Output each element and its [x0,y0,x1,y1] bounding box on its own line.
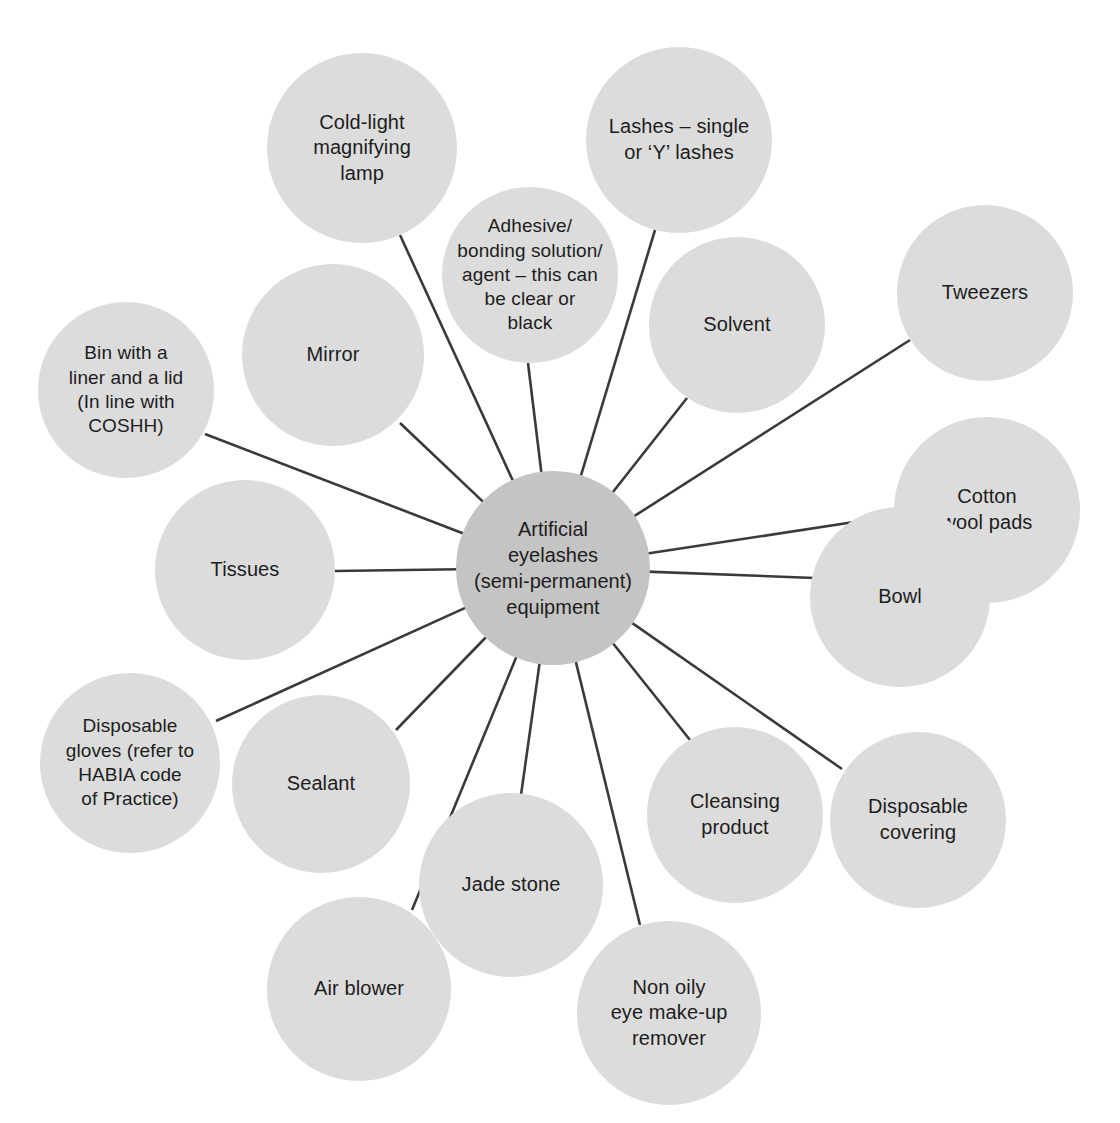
node-label-solvent: Solvent [697,312,776,338]
node-label-bowl: Bowl [872,584,928,610]
node-label-lashes-single-or-y: Lashes – single or ‘Y’ lashes [603,114,755,165]
edge-bowl [647,572,815,578]
node-label-jade-stone: Jade stone [456,872,567,898]
node-cold-light-magnifying-lamp[interactable]: Cold-light magnifying lamp [267,53,457,243]
node-cleansing-product[interactable]: Cleansing product [647,727,823,903]
node-label-adhesive-bonding-solution: Adhesive/ bonding solution/ agent – this… [451,214,608,336]
edge-jade-stone [521,661,540,795]
node-jade-stone[interactable]: Jade stone [419,793,603,977]
edge-adhesive-bonding-solution [528,363,542,475]
node-non-oily-eye-make-up-remover[interactable]: Non oily eye make-up remover [577,921,761,1105]
node-label-disposable-covering: Disposable covering [862,794,974,845]
node-label-sealant: Sealant [281,771,362,797]
edge-mirror [400,423,485,503]
node-sealant[interactable]: Sealant [232,695,410,873]
node-solvent[interactable]: Solvent [649,237,825,413]
node-label-mirror: Mirror [301,342,366,368]
edge-sealant [396,636,488,731]
center-node[interactable]: Artificial eyelashes (semi-permanent) eq… [456,471,650,665]
node-label-tweezers: Tweezers [936,280,1034,306]
node-air-blower[interactable]: Air blower [267,897,451,1081]
edge-tissues [335,569,459,571]
node-bowl[interactable]: Bowl [810,507,990,687]
node-tissues[interactable]: Tissues [155,480,335,660]
node-label-disposable-gloves-habia: Disposable gloves (refer to HABIA code o… [60,714,200,811]
node-disposable-covering[interactable]: Disposable covering [830,732,1006,908]
mind-map-canvas: Cold-light magnifying lampAdhesive/ bond… [0,0,1120,1123]
node-mirror[interactable]: Mirror [242,264,424,446]
node-bin-with-liner-and-lid[interactable]: Bin with a liner and a lid (In line with… [38,302,214,478]
edge-solvent [611,398,687,494]
node-tweezers[interactable]: Tweezers [897,205,1073,381]
node-label-air-blower: Air blower [308,976,410,1002]
node-label-tissues: Tissues [205,557,286,583]
node-disposable-gloves-habia[interactable]: Disposable gloves (refer to HABIA code o… [40,673,220,853]
node-label-bin-with-liner-and-lid: Bin with a liner and a lid (In line with… [63,341,190,438]
node-adhesive-bonding-solution[interactable]: Adhesive/ bonding solution/ agent – this… [442,187,618,363]
center-node-label: Artificial eyelashes (semi-permanent) eq… [468,516,638,620]
node-lashes-single-or-y[interactable]: Lashes – single or ‘Y’ lashes [586,47,772,233]
node-label-cold-light-magnifying-lamp: Cold-light magnifying lamp [307,110,417,187]
node-label-non-oily-eye-make-up-remover: Non oily eye make-up remover [605,975,734,1052]
node-label-cleansing-product: Cleansing product [684,789,786,840]
